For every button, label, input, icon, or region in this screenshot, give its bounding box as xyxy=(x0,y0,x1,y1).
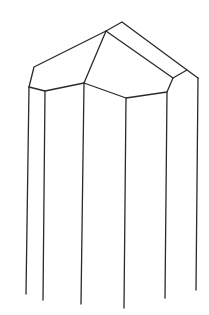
ridge-edge-left xyxy=(84,31,106,83)
prism-edges xyxy=(26,78,198,308)
prism-edge-3 xyxy=(81,83,84,304)
ridge-edge-right xyxy=(106,31,173,78)
lower-rim-edge xyxy=(29,70,198,98)
crystal-drawing xyxy=(0,0,209,315)
prism-edge-6 xyxy=(196,78,198,290)
termination-facets xyxy=(29,22,198,98)
prism-edge-5 xyxy=(165,92,167,298)
prism-edge-1 xyxy=(26,87,29,294)
prism-edge-2 xyxy=(43,91,45,300)
prism-edge-4 xyxy=(124,98,126,308)
